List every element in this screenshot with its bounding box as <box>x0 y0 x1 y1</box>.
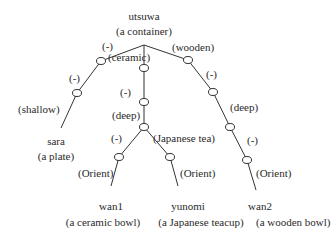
leaf-wan2-gloss: (a wooden bowl) <box>256 216 331 228</box>
tree-node <box>73 90 82 97</box>
tree-node <box>140 124 149 131</box>
tree-node <box>166 154 175 161</box>
edge-line <box>170 157 178 186</box>
edge-label-center-deep: (deep) <box>112 109 140 121</box>
edge-label-fork-left: (-) <box>111 132 122 144</box>
edge-label-orient-yunomi: (Orient) <box>180 167 215 179</box>
edge-line <box>230 127 247 160</box>
leaf-wan1-word: wan1 <box>99 200 123 212</box>
leaf-sara-gloss: (a plate) <box>38 150 74 162</box>
edge-line <box>119 127 144 157</box>
edge-label-ceramic: (ceramic) <box>108 51 150 63</box>
edge-line <box>77 61 101 93</box>
edge-label-right-deep: (deep) <box>230 101 258 113</box>
tree-node <box>184 57 193 64</box>
root-word: utsuwa <box>128 10 159 22</box>
tree-node <box>97 58 106 65</box>
edge-label-japanese-tea: (Japanese tea) <box>153 132 215 144</box>
root-gloss: (a container) <box>116 25 172 37</box>
edge-label-right-mid1: (-) <box>206 68 217 80</box>
leaf-wan1-gloss: (a ceramic bowl) <box>66 216 141 228</box>
edge-line <box>213 92 230 127</box>
edge-label-center-mid: (-) <box>120 86 131 98</box>
leaf-wan2-word: wan2 <box>248 200 272 212</box>
edge-label-orient-wan1: (Orient) <box>78 167 113 179</box>
tree-node <box>140 65 149 72</box>
edge-label-left-mid: (-) <box>69 72 80 84</box>
edge-line <box>247 160 256 190</box>
edge-label-orient-wan2: (Orient) <box>256 167 291 179</box>
tree-node <box>226 124 235 131</box>
edge-label-right-mid2: (-) <box>247 134 258 146</box>
edge-line <box>61 93 77 128</box>
tree-node <box>140 99 149 106</box>
tree-node <box>243 157 252 164</box>
tree-node <box>209 89 218 96</box>
leaf-sara-word: sara <box>47 135 65 147</box>
edge-label-shallow: (shallow) <box>18 103 60 115</box>
leaf-yunomi-word: yunomi <box>171 200 205 212</box>
tree-node <box>115 154 124 161</box>
leaf-yunomi-gloss: (a Japanese teacup) <box>158 216 244 228</box>
edge-label-wooden: (wooden) <box>172 41 214 53</box>
